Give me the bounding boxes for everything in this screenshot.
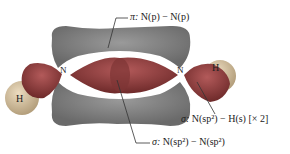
atom-n-left: N [60,65,67,75]
label-sigma-nn: σ: N(sp²) − N(sp²) [152,136,225,147]
label-sigma-nn-prefix: σ: [152,136,163,147]
orbital-diagram [0,0,290,154]
atom-h-left: H [16,93,23,104]
label-sigma-nn-text: N(sp²) − N(sp²) [163,136,225,147]
label-pi-text: N(p) − N(p) [141,11,189,22]
label-pi-prefix: π: [130,11,141,22]
label-pi-bond: π: N(p) − N(p) [130,11,189,22]
atom-h-right: H [212,62,219,73]
label-sigma-nh-text: N(sp²) − H(s) [× 2] [192,113,268,124]
label-sigma-nh-prefix: σ: [181,113,192,124]
label-sigma-nh: σ: N(sp²) − H(s) [× 2] [181,113,268,124]
atom-n-right: N [177,65,184,75]
